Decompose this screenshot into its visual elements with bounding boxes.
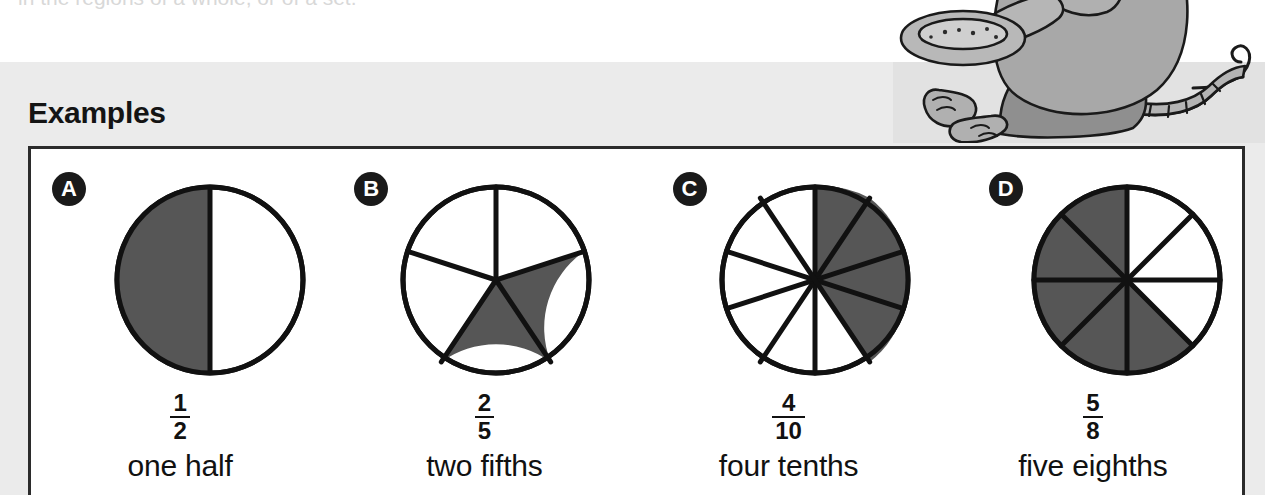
- example-badge-d: D: [989, 172, 1023, 206]
- example-caption-d: 5 8 five eighths: [941, 390, 1245, 483]
- examples-grid: A 1 2 one half B: [28, 146, 1245, 495]
- example-caption-b: 2 5 two fifths: [332, 390, 636, 483]
- fraction-denominator: 2: [170, 416, 189, 444]
- fraction-denominator: 8: [1083, 416, 1102, 444]
- example-cell-d: D: [941, 146, 1245, 495]
- example-cell-b: B: [332, 146, 636, 495]
- fraction-numerator: 2: [475, 390, 494, 416]
- example-cell-a: A 1 2 one half: [28, 146, 332, 495]
- fraction-circle-a: [110, 180, 310, 380]
- example-badge-b: B: [354, 172, 388, 206]
- fraction-two-fifths: 2 5: [475, 390, 494, 444]
- fraction-numerator: 4: [772, 390, 805, 416]
- fraction-numerator: 5: [1083, 390, 1102, 416]
- fraction-circle-c: [715, 180, 915, 380]
- fraction-words: four tenths: [637, 449, 941, 483]
- example-caption-c: 4 10 four tenths: [637, 390, 941, 483]
- example-caption-a: 1 2 one half: [28, 390, 332, 483]
- page-title: Examples: [28, 96, 166, 130]
- example-badge-a: A: [52, 172, 86, 206]
- example-cell-c: C: [637, 146, 941, 495]
- example-badge-c: C: [673, 172, 707, 206]
- fraction-words: one half: [28, 449, 332, 483]
- fraction-four-tenths: 4 10: [772, 390, 805, 444]
- textbook-page: in the regions of a whole, or of a set.: [0, 0, 1265, 495]
- fraction-circle-b: [396, 180, 596, 380]
- fraction-words: two fifths: [332, 449, 636, 483]
- fraction-numerator: 1: [170, 390, 189, 416]
- fraction-circle-d: [1027, 180, 1227, 380]
- cut-off-text-line: in the regions of a whole, or of a set.: [18, 0, 438, 12]
- fraction-denominator: 10: [772, 416, 805, 444]
- fraction-denominator: 5: [475, 416, 494, 444]
- fraction-five-eighths: 5 8: [1083, 390, 1102, 444]
- fraction-words: five eighths: [941, 449, 1245, 483]
- fraction-one-half: 1 2: [170, 390, 189, 444]
